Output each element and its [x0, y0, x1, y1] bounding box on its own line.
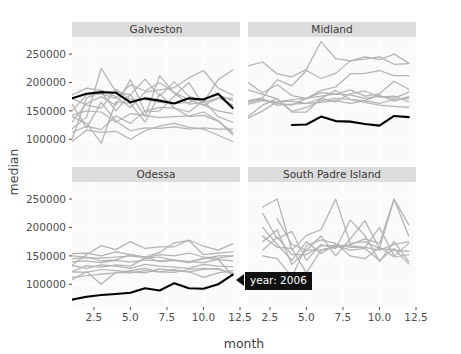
ytick-label: 200000	[26, 76, 66, 88]
ytick-label: 100000	[26, 278, 66, 290]
xtick-label: 7.5	[335, 311, 352, 323]
ytick-label: 250000	[26, 193, 66, 205]
y-axis-title: median	[6, 149, 21, 196]
xtick-label: 5.0	[298, 311, 315, 323]
panel-title-4: South Padre Island	[283, 168, 381, 180]
chart-root: Galveston100000150000200000250000Midland…	[0, 0, 461, 354]
ytick-label: 150000	[26, 250, 66, 262]
panel-bg-3	[72, 182, 240, 307]
xtick-label: 2.5	[262, 311, 279, 323]
xtick-label: 2.5	[86, 311, 103, 323]
xtick-label: 10.0	[368, 311, 391, 323]
xtick-label: 10.0	[192, 311, 215, 323]
x-axis-title: month	[224, 336, 265, 351]
xtick-label: 12.5	[404, 311, 427, 323]
ytick-label: 100000	[26, 133, 66, 145]
panel-title-3: Odessa	[137, 168, 176, 180]
ytick-label: 200000	[26, 221, 66, 233]
tooltip-arrow	[236, 274, 244, 286]
ytick-label: 150000	[26, 105, 66, 117]
ytick-label: 250000	[26, 48, 66, 60]
xtick-label: 5.0	[122, 311, 139, 323]
tooltip-year-2006[interactable]: year: 2006	[245, 272, 312, 290]
xtick-label: 12.5	[228, 311, 251, 323]
xtick-label: 7.5	[159, 311, 176, 323]
panel-title-1: Galveston	[130, 23, 183, 35]
panel-title-2: Midland	[311, 23, 352, 35]
faceted-line-chart: Galveston100000150000200000250000Midland…	[0, 0, 461, 354]
